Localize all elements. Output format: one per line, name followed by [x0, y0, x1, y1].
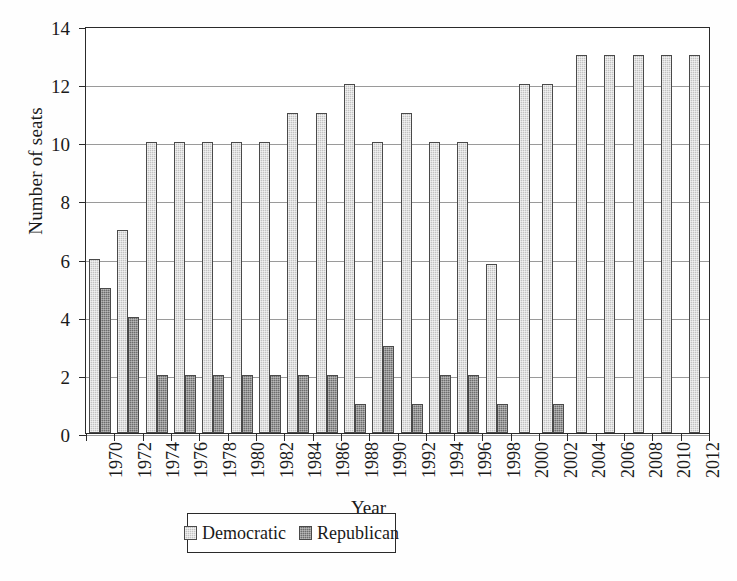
x-axis-label-cell: 2004: [568, 442, 596, 494]
bar-democratic-1990[interactable]: [372, 142, 383, 433]
x-axis-label-cell: 2006: [596, 442, 624, 494]
bar-columns: [86, 28, 709, 433]
x-axis-label-cell: 1998: [483, 442, 511, 494]
y-axis-tick-label: 2: [61, 367, 71, 389]
x-axis-tick: [482, 433, 483, 441]
bar-group: [341, 28, 369, 433]
legend-swatch-dem: [184, 526, 197, 540]
bar-republican-1974[interactable]: [157, 375, 168, 433]
bar-democratic-2000[interactable]: [519, 84, 530, 433]
x-axis-tick: [199, 433, 200, 441]
bar-republican-1986[interactable]: [327, 375, 338, 433]
bar-group: [567, 28, 595, 433]
x-axis-tick: [681, 433, 682, 441]
bar-democratic-1994[interactable]: [429, 142, 440, 433]
x-axis-label-cell: 1986: [312, 442, 340, 494]
bar-democratic-1972[interactable]: [117, 230, 128, 434]
bar-democratic-1982[interactable]: [259, 142, 270, 433]
bar-democratic-2002[interactable]: [542, 84, 553, 433]
plot-area: 02468101214: [85, 27, 710, 434]
bar-republican-1984[interactable]: [298, 375, 309, 433]
x-axis-tick-label: 2012: [703, 442, 724, 478]
x-axis-tick: [652, 433, 653, 441]
chart-container: Number of seats 02468101214 197019721974…: [0, 0, 737, 581]
bar-republican-1972[interactable]: [128, 317, 139, 433]
x-axis-tick: [369, 433, 370, 441]
bar-republican-1970[interactable]: [100, 288, 111, 433]
bar-group: [397, 28, 425, 433]
bar-democratic-2008[interactable]: [633, 55, 644, 433]
bar-democratic-2010[interactable]: [661, 55, 672, 433]
y-axis-tick: 4: [79, 319, 86, 320]
x-axis-label-cell: 1978: [199, 442, 227, 494]
y-axis-tick-label: 6: [61, 251, 71, 273]
x-axis-label-cell: 1990: [369, 442, 397, 494]
bar-group: [539, 28, 567, 433]
bar-democratic-1996[interactable]: [457, 142, 468, 433]
x-axis-label-cell: 2000: [511, 442, 539, 494]
x-axis-tick: [228, 433, 229, 441]
bar-group: [511, 28, 539, 433]
y-axis-tick-label: 0: [61, 425, 71, 447]
y-axis-tick: 6: [79, 261, 86, 262]
x-axis-tick: [284, 433, 285, 441]
bar-republican-1988[interactable]: [355, 404, 366, 433]
x-axis-label-cell: 2008: [625, 442, 653, 494]
y-axis-tick-label: 4: [61, 309, 71, 331]
bar-group: [86, 28, 114, 433]
bar-democratic-1988[interactable]: [344, 84, 355, 433]
x-axis-label-cell: 1988: [341, 442, 369, 494]
bar-democratic-1974[interactable]: [146, 142, 157, 433]
x-axis-label-cell: 1972: [113, 442, 141, 494]
bar-group: [171, 28, 199, 433]
bar-democratic-1998[interactable]: [486, 264, 497, 433]
x-axis-tick: [567, 433, 568, 441]
x-axis-tick: [256, 433, 257, 441]
y-axis-tick-label: 12: [51, 76, 70, 98]
x-axis-label-cell: 1974: [142, 442, 170, 494]
x-axis-label-cell: 2012: [682, 442, 710, 494]
bar-democratic-2006[interactable]: [604, 55, 615, 433]
bar-democratic-1992[interactable]: [401, 113, 412, 433]
legend-label: Republican: [317, 523, 399, 544]
x-axis-tick: [341, 433, 342, 441]
y-axis-tick: 14: [79, 28, 86, 29]
bar-democratic-1978[interactable]: [202, 142, 213, 433]
bar-republican-1998[interactable]: [497, 404, 508, 433]
x-axis-label-cell: 1996: [454, 442, 482, 494]
bar-republican-1996[interactable]: [468, 375, 479, 433]
bar-group: [652, 28, 680, 433]
x-axis-label-cell: 1980: [227, 442, 255, 494]
y-axis-title: Number of seats: [25, 71, 47, 271]
y-axis-tick: 10: [79, 144, 86, 145]
x-axis-label-cell: 1970: [85, 442, 113, 494]
bar-democratic-1976[interactable]: [174, 142, 185, 433]
bar-group: [256, 28, 284, 433]
bar-democratic-1970[interactable]: [89, 259, 100, 433]
bar-group: [681, 28, 709, 433]
bar-democratic-2012[interactable]: [689, 55, 700, 433]
x-axis-tick: [171, 433, 172, 441]
bar-republican-1978[interactable]: [213, 375, 224, 433]
x-axis-tick: [511, 433, 512, 441]
legend-swatch-rep: [299, 526, 312, 540]
x-axis-tick: [143, 433, 144, 441]
bar-democratic-1986[interactable]: [316, 113, 327, 433]
bar-democratic-1980[interactable]: [231, 142, 242, 433]
legend-item-republican[interactable]: Republican: [299, 523, 399, 544]
bar-republican-1994[interactable]: [440, 375, 451, 433]
bar-republican-1990[interactable]: [383, 346, 394, 433]
bar-democratic-1984[interactable]: [287, 113, 298, 433]
x-axis-tick: [709, 433, 710, 441]
bar-group: [199, 28, 227, 433]
y-axis-tick: 2: [79, 377, 86, 378]
x-axis-label-cell: 2002: [540, 442, 568, 494]
bar-republican-1976[interactable]: [185, 375, 196, 433]
bar-republican-1982[interactable]: [270, 375, 281, 433]
legend-item-democratic[interactable]: Democratic: [184, 523, 286, 544]
bar-republican-2002[interactable]: [553, 404, 564, 433]
bar-group: [596, 28, 624, 433]
bar-republican-1992[interactable]: [412, 404, 423, 433]
bar-democratic-2004[interactable]: [576, 55, 587, 433]
bar-republican-1980[interactable]: [242, 375, 253, 433]
